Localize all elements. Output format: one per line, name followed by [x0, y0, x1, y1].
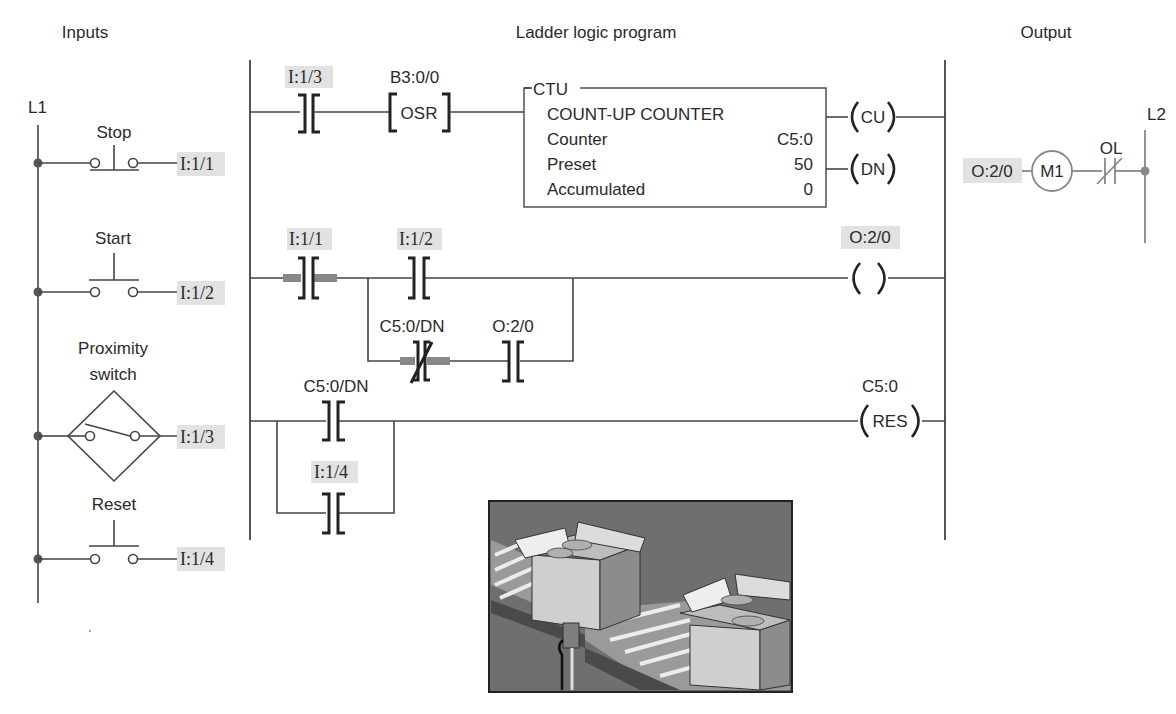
ctu-header: CTU [533, 80, 568, 99]
ctu-row-value: 0 [804, 180, 813, 199]
reset-label: Reset [92, 495, 137, 514]
motor-label: M1 [1040, 162, 1064, 181]
rung3-branch-address: I:1/4 [314, 462, 348, 482]
osr-address: B3:0/0 [390, 68, 439, 87]
output-address: O:2/0 [971, 162, 1013, 181]
osr-instruction: OSR [390, 94, 449, 131]
proximity-label-line1: Proximity [78, 339, 148, 358]
rung-1: I:1/3 B3:0/0 OSR CTU COUNT-UP COUNTER Co… [250, 66, 945, 207]
l2-label: L2 [1147, 105, 1166, 124]
dn-coil-icon: DN [852, 154, 894, 184]
stop-label: Stop [97, 123, 132, 142]
ctu-row-label: Accumulated [547, 180, 645, 199]
reset-pushbutton: Reset I:1/4 [34, 495, 226, 571]
rung2-contact2-address: I:1/2 [399, 229, 433, 249]
rung2-contact1-address: I:1/1 [289, 229, 323, 249]
rung3-coil-address: C5:0 [862, 377, 898, 396]
rung2-coil-address: O:2/0 [849, 228, 891, 247]
osr-label: OSR [401, 104, 438, 123]
cu-coil-icon: CU [852, 102, 894, 132]
start-pushbutton: Start I:1/2 [34, 229, 226, 305]
overload-label: OL [1100, 139, 1123, 158]
ctu-row-label: Preset [547, 155, 596, 174]
output-section: L2 O:2/0 M1 OL [963, 105, 1166, 243]
ctu-row-value: 50 [794, 155, 813, 174]
output-header: Output [1020, 23, 1071, 42]
inputs-header: Inputs [62, 23, 108, 42]
rung-2: I:1/1 I:1/2 C5:0/DN [250, 226, 945, 383]
program-header: Ladder logic program [516, 23, 677, 42]
start-address: I:1/2 [180, 283, 214, 303]
proximity-sensor-icon [563, 623, 579, 648]
ctu-block: CTU COUNT-UP COUNTER Counter C5:0 Preset… [524, 80, 826, 207]
inputs-section: L1 Stop I:1/1 Start I:1/2 [28, 98, 225, 603]
l1-label: L1 [28, 98, 47, 117]
reset-address: I:1/4 [180, 549, 214, 569]
dn-coil-label: DN [861, 160, 886, 179]
cu-coil-label: CU [861, 108, 886, 127]
proximity-address: I:1/3 [180, 427, 214, 447]
reset-coil-label: RES [873, 412, 908, 431]
stop-address: I:1/1 [180, 154, 214, 174]
ctu-row-value: C5:0 [777, 130, 813, 149]
stop-pushbutton: Stop I:1/1 [34, 123, 226, 176]
rung3-contact-address: C5:0/DN [303, 377, 368, 396]
rung2-nc-address: C5:0/DN [379, 317, 444, 336]
no-contact-icon [298, 95, 320, 132]
start-label: Start [95, 229, 131, 248]
proximity-switch: Proximity switch I:1/3 [34, 339, 226, 481]
proximity-label-line2: switch [89, 365, 136, 384]
ladder-program: I:1/3 B3:0/0 OSR CTU COUNT-UP COUNTER Co… [250, 60, 945, 540]
conveyor-illustration [489, 501, 792, 692]
ctu-title: COUNT-UP COUNTER [547, 105, 724, 124]
ctu-row-label: Counter [547, 130, 608, 149]
rung1-contact-address: I:1/3 [288, 67, 322, 87]
ladder-diagram: Inputs Ladder logic program Output L1 St… [0, 0, 1176, 714]
rung2-branch-no-address: O:2/0 [492, 317, 534, 336]
